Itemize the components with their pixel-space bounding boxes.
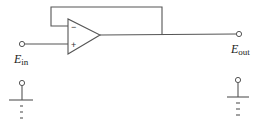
inverting-input-sign: −	[71, 22, 76, 32]
input-terminal	[19, 41, 68, 46]
noninverting-input-sign: +	[71, 40, 76, 50]
ground-symbol-left	[9, 80, 33, 118]
output-label: Eout	[230, 42, 250, 57]
input-label: Ein	[13, 52, 29, 67]
output-terminal	[100, 31, 242, 36]
circuit-diagram: − + Ein Eout	[0, 0, 265, 129]
ground-symbol-right	[227, 77, 249, 115]
opamp-symbol: − +	[68, 19, 100, 54]
